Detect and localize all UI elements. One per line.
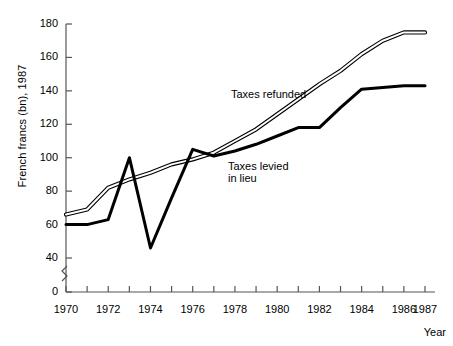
y-tick-label: 140: [30, 85, 58, 96]
y-tick-label: 100: [30, 152, 58, 163]
y-tick-label: 120: [30, 118, 58, 129]
y-tick-label: 160: [30, 51, 58, 62]
y-tick-label: 60: [30, 219, 58, 230]
x-tick-label: 1970: [43, 304, 89, 315]
chart-plot-area: [0, 0, 453, 346]
y-axis-title: French francs (bn), 1987: [16, 41, 28, 211]
y-tick-label: 40: [30, 252, 58, 263]
series-label-taxes-refunded: Taxes refunded: [231, 88, 306, 100]
y-tick-label: 80: [30, 185, 58, 196]
x-tick-label: 1974: [127, 304, 173, 315]
x-axis-title: Year: [424, 326, 446, 338]
x-tick-label: 1984: [339, 304, 385, 315]
x-tick-label: 1976: [170, 304, 216, 315]
x-tick-label: 1972: [85, 304, 131, 315]
y-tick-label: 180: [30, 18, 58, 29]
chart-figure: French francs (bn), 1987 040608010012014…: [0, 0, 453, 346]
x-tick-label: 1978: [212, 304, 258, 315]
series-label-taxes-levied-in-lieu: Taxes levied in lieu: [228, 160, 289, 184]
x-tick-label: 1987: [402, 304, 448, 315]
x-tick-label: 1982: [296, 304, 342, 315]
y-tick-label: 0: [30, 286, 58, 297]
x-tick-label: 1980: [254, 304, 300, 315]
